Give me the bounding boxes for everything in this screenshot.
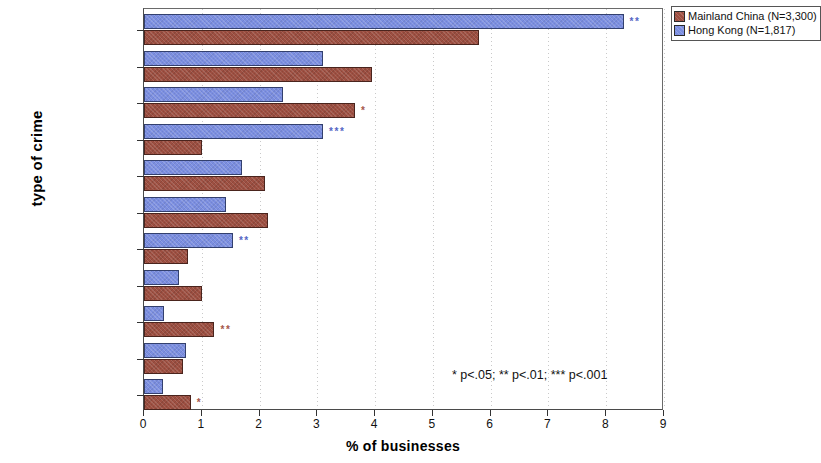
- significance-marker-hong-kong: **: [630, 14, 641, 29]
- x-axis-tick: [374, 410, 375, 416]
- x-axis-tick-label: 4: [361, 417, 387, 431]
- bar-mainland-china: [144, 213, 268, 228]
- y-axis-tick: [137, 395, 144, 396]
- y-axis-tick: [137, 249, 144, 250]
- bar-row: ***theft by customers: [144, 119, 662, 156]
- bar-row: burglary: [144, 46, 662, 83]
- x-axis-tick-label: 2: [246, 417, 272, 431]
- y-axis-title: type of crime: [28, 79, 45, 239]
- significance-marker-mainland-china: *: [197, 395, 202, 410]
- x-axis-tick: [316, 410, 317, 416]
- y-axis-tick: [137, 286, 144, 287]
- x-axis-tick: [490, 410, 491, 416]
- x-axis-tick-label: 1: [188, 417, 214, 431]
- bar-mainland-china: [144, 395, 191, 410]
- x-axis-tick-label: 7: [534, 417, 560, 431]
- significance-marker-hong-kong: **: [239, 233, 250, 248]
- bar-row: **other crimes: [144, 228, 662, 265]
- legend-label: Hong Kong (N=1,817): [688, 24, 795, 36]
- bar-mainland-china: [144, 322, 214, 337]
- x-axis-tick: [547, 410, 548, 416]
- y-axis-tick: [137, 213, 144, 214]
- y-axis-tick: [137, 176, 144, 177]
- y-axis-tick: [137, 67, 144, 68]
- bar-hong-kong: [144, 14, 624, 29]
- bar-row: **robbery: [144, 301, 662, 338]
- y-axis-tick: [137, 322, 144, 323]
- x-axis-tick: [605, 410, 606, 416]
- significance-marker-hong-kong: ***: [329, 124, 345, 139]
- x-axis-tick-label: 0: [130, 417, 156, 431]
- bar-row: **nine crimes: [144, 9, 662, 46]
- x-axis-tick-label: 3: [303, 417, 329, 431]
- bar-mainland-china: [144, 67, 372, 82]
- bar-mainland-china: [144, 286, 202, 301]
- bar-hong-kong: [144, 124, 323, 139]
- legend: Mainland China (N=3,300)Hong Kong (N=1,8…: [671, 6, 821, 41]
- bar-hong-kong: [144, 160, 242, 175]
- bar-hong-kong: [144, 51, 323, 66]
- bar-mainland-china: [144, 249, 188, 264]
- y-axis-tick: [137, 103, 144, 104]
- x-axis-tick-label: 6: [477, 417, 503, 431]
- bar-hong-kong: [144, 270, 179, 285]
- legend-item: Mainland China (N=3,300): [674, 9, 817, 23]
- x-axis-tick: [143, 410, 144, 416]
- gridline: [664, 9, 665, 409]
- legend-label: Mainland China (N=3,300): [688, 10, 817, 22]
- bar-mainland-china: [144, 30, 479, 45]
- y-axis-tick: [137, 140, 144, 141]
- x-axis-tick-label: 5: [419, 417, 445, 431]
- y-axis-tick: [137, 30, 144, 31]
- bar-mainland-china: [144, 176, 265, 191]
- bar-hong-kong: [144, 306, 164, 321]
- significance-footnote: * p<.05; ** p<.01; *** p<.001: [452, 368, 607, 382]
- significance-marker-mainland-china: *: [361, 103, 366, 118]
- bar-row: theft from vehicle: [144, 265, 662, 302]
- x-axis-tick: [663, 410, 664, 416]
- bar-row: *theft by outsiders: [144, 82, 662, 119]
- y-axis-tick: [137, 359, 144, 360]
- bar-hong-kong: [144, 343, 186, 358]
- legend-item: Hong Kong (N=1,817): [674, 23, 817, 37]
- x-axis-tick-label: 9: [650, 417, 676, 431]
- bar-row: vandalism: [144, 192, 662, 229]
- bar-mainland-china: [144, 140, 202, 155]
- x-axis-tick: [432, 410, 433, 416]
- bar-hong-kong: [144, 197, 226, 212]
- x-axis-tick: [259, 410, 260, 416]
- legend-swatch-icon: [674, 25, 685, 36]
- bar-mainland-china: [144, 103, 355, 118]
- bar-rows: **nine crimesburglary*theft by outsiders…: [144, 9, 662, 409]
- x-axis-title: % of businesses: [143, 438, 663, 454]
- x-axis-tick-label: 8: [592, 417, 618, 431]
- bar-hong-kong: [144, 379, 163, 394]
- x-axis-tick: [201, 410, 202, 416]
- bar-row: theft by employees: [144, 155, 662, 192]
- plot-area: **nine crimesburglary*theft by outsiders…: [143, 8, 663, 410]
- bar-hong-kong: [144, 233, 233, 248]
- legend-swatch-icon: [674, 11, 685, 22]
- bar-mainland-china: [144, 359, 183, 374]
- significance-marker-mainland-china: **: [220, 322, 231, 337]
- x-axis-ticks: 0123456789: [143, 410, 663, 440]
- bar-hong-kong: [144, 87, 283, 102]
